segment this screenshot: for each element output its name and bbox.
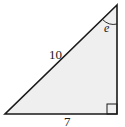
- triangle-diagram: e 10 7: [0, 0, 125, 127]
- angle-label: e: [104, 21, 110, 35]
- base-label: 7: [64, 114, 71, 127]
- hypotenuse-label: 10: [49, 47, 62, 62]
